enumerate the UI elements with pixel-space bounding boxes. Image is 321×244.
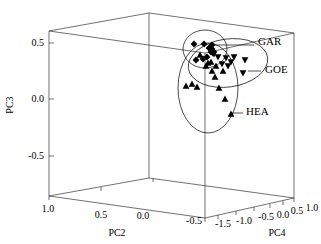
pc2-tick-label-3: -0.5 <box>186 215 202 226</box>
data-point-goe-1 <box>215 54 222 60</box>
plot-canvas: 0.5 0.0 -0.5 PC3 1.0 0.5 0.0 -0.5 PC2 -1… <box>0 0 321 244</box>
pc2-axis: 1.0 0.5 0.0 -0.5 PC2 <box>42 178 205 238</box>
group-label-gar: GAR <box>258 35 282 47</box>
data-point-goe-5 <box>219 61 226 67</box>
pc4-tick-label-4: 0.5 <box>291 205 304 216</box>
data-point-hea-10 <box>222 96 229 102</box>
box-top-face <box>49 13 294 53</box>
pc2-tick-label-1: 0.5 <box>95 209 108 220</box>
data-point-goe-4 <box>242 57 249 63</box>
pc3-tick-label-0: 0.5 <box>32 37 45 48</box>
pc4-tick-label-0: -1.5 <box>215 218 231 229</box>
pc4-tick-label-1: -1.0 <box>236 215 252 226</box>
pc3-tick-label-1: 0.0 <box>32 93 45 104</box>
pc4-tick-label-2: -0.5 <box>258 211 274 222</box>
pc3-tick-label-2: -0.5 <box>28 150 44 161</box>
pc3-axis: 0.5 0.0 -0.5 PC3 <box>4 37 54 161</box>
pc2-axis-title: PC2 <box>108 227 125 238</box>
data-point-goe-7 <box>240 70 247 76</box>
pc4-tick-label-3: 0.0 <box>277 209 290 220</box>
pca-3d-scatter-plot: 0.5 0.0 -0.5 PC3 1.0 0.5 0.0 -0.5 PC2 -1… <box>0 0 321 244</box>
pc3-axis-title: PC3 <box>4 96 15 113</box>
pc4-axis-title: PC4 <box>268 227 285 238</box>
pc4-tick-label-5: 1.0 <box>306 202 319 213</box>
data-point-hea-5 <box>220 68 227 74</box>
group-label-hea: HEA <box>246 105 269 117</box>
group-label-goe: GOE <box>265 63 288 75</box>
data-markers <box>183 41 249 117</box>
data-point-hea-6 <box>183 83 190 89</box>
group-annotations: GARGOEHEA <box>246 35 288 117</box>
pc2-tick-label-0: 1.0 <box>42 203 55 214</box>
data-point-gar-1 <box>201 41 208 48</box>
data-point-hea-7 <box>189 81 196 87</box>
pc2-tick-label-2: 0.0 <box>137 210 150 221</box>
data-point-hea-12 <box>212 74 219 80</box>
